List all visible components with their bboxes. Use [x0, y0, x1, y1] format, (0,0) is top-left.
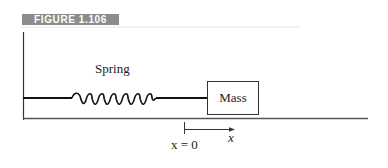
- spring-label: Spring: [95, 61, 130, 77]
- origin-label: x = 0: [171, 137, 198, 153]
- x-axis-label: x: [228, 130, 234, 146]
- spring-icon: [72, 93, 156, 104]
- mass-label: Mass: [207, 81, 259, 115]
